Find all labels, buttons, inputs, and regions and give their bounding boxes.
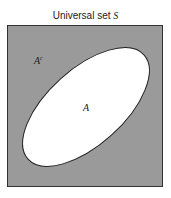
set-a-label: A [82, 102, 90, 113]
venn-diagram: Ac A [0, 0, 171, 198]
